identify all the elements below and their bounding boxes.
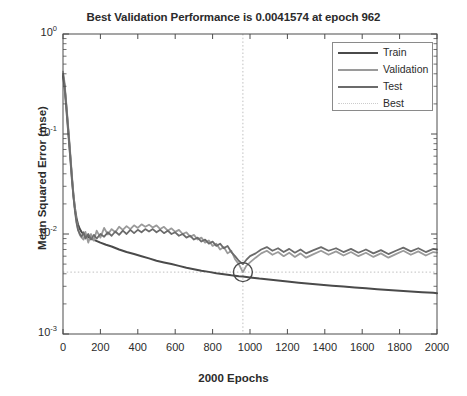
x-tick-label: 1200 (275, 341, 299, 353)
chart-legend: TrainValidationTestBest (332, 42, 433, 111)
x-axis-label: 2000 Epochs (0, 372, 467, 384)
chart-canvas: Best Validation Performance is 0.0041574… (0, 0, 467, 396)
legend-item-train[interactable]: Train (333, 44, 434, 61)
x-tick-label: 800 (203, 341, 221, 353)
x-tick-label: 200 (91, 341, 109, 353)
x-tick-label: 600 (166, 341, 184, 353)
legend-swatch-validation-icon (338, 61, 378, 78)
legend-label: Test (383, 78, 402, 95)
x-tick-label: 1400 (313, 341, 337, 353)
x-tick-label: 1000 (238, 341, 262, 353)
y-tick-label: 10-2 (23, 226, 57, 238)
legend-label: Train (383, 44, 407, 61)
legend-item-validation[interactable]: Validation (333, 61, 434, 78)
x-tick-label: 400 (129, 341, 147, 353)
y-tick-label: 100 (23, 26, 57, 38)
x-tick-label: 1600 (350, 341, 374, 353)
x-tick-label: 2000 (425, 341, 449, 353)
legend-item-best[interactable]: Best (333, 95, 434, 112)
y-tick-label: 10-1 (23, 126, 57, 138)
legend-label: Best (383, 95, 404, 112)
legend-swatch-test-icon (338, 78, 378, 95)
y-tick-label: 10-3 (23, 326, 57, 338)
legend-swatch-best-icon (338, 95, 378, 112)
legend-label: Validation (383, 61, 428, 78)
legend-swatch-train-icon (338, 44, 378, 61)
y-axis-label: Mean Squared Error (mse) (36, 88, 48, 268)
legend-item-test[interactable]: Test (333, 78, 434, 95)
x-tick-label: 1800 (387, 341, 411, 353)
x-tick-label: 0 (60, 341, 66, 353)
